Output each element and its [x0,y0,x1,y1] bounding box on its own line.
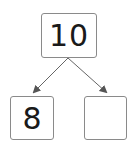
arrow-left [34,58,68,92]
whole-value: 10 [49,18,89,53]
part-value-left: 8 [22,101,41,136]
part-box-right-empty[interactable] [84,96,127,140]
missing-part-input[interactable] [85,97,126,139]
arrow-right [68,58,106,92]
part-box-left: 8 [10,96,54,140]
whole-box: 10 [41,13,97,58]
